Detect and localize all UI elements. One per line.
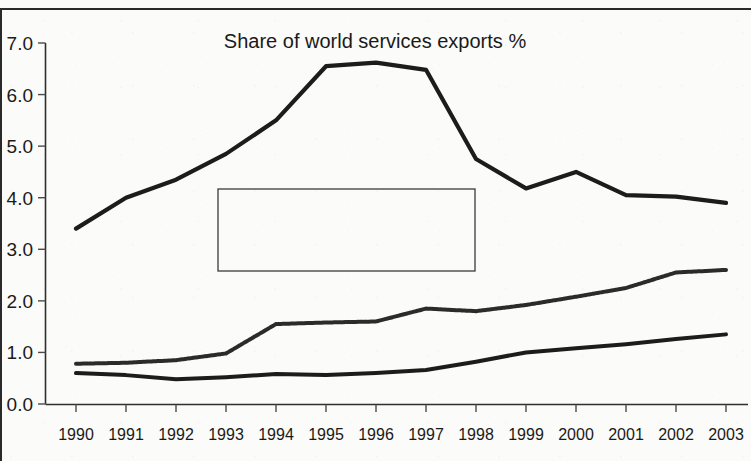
x-tick-label: 1994 <box>258 426 294 443</box>
x-tick-label: 1990 <box>58 426 94 443</box>
legend-background <box>218 189 475 271</box>
series-line-cn <box>76 270 726 364</box>
y-tick-label: 3.0 <box>7 239 33 260</box>
y-tick-label: 1.0 <box>7 342 33 363</box>
x-tick-label: 2001 <box>608 426 644 443</box>
chart-title: Share of world services exports % <box>224 30 527 52</box>
y-tick-label: 5.0 <box>7 136 33 157</box>
x-tick-label: 1993 <box>208 426 244 443</box>
x-tick-label: 1991 <box>108 426 144 443</box>
y-tick-label: 6.0 <box>7 85 33 106</box>
x-axis-tick-labels: 1990199119921993199419951996199719981999… <box>58 426 744 443</box>
chart-legend <box>218 189 475 271</box>
x-tick-label: 1998 <box>458 426 494 443</box>
x-tick-label: 2000 <box>558 426 594 443</box>
x-tick-label: 2003 <box>708 426 744 443</box>
y-tick-label: 4.0 <box>7 188 33 209</box>
x-tick-label: 1999 <box>508 426 544 443</box>
x-tick-label: 1995 <box>308 426 344 443</box>
x-axis-ticks <box>76 405 726 413</box>
line-chart: Share of world services exports % 0.01.0… <box>0 0 751 461</box>
series-line-in <box>76 334 726 379</box>
x-tick-label: 2002 <box>658 426 694 443</box>
y-axis-ticks <box>38 43 46 404</box>
x-tick-label: 1997 <box>408 426 444 443</box>
y-tick-label: 0.0 <box>7 394 33 415</box>
x-tick-label: 1992 <box>158 426 194 443</box>
y-tick-label: 2.0 <box>7 291 33 312</box>
x-tick-label: 1996 <box>358 426 394 443</box>
chart-page: Share of world services exports % 0.01.0… <box>0 0 751 461</box>
y-axis-tick-labels: 0.01.02.03.04.05.06.07.0 <box>7 33 33 415</box>
y-tick-label: 7.0 <box>7 33 33 54</box>
